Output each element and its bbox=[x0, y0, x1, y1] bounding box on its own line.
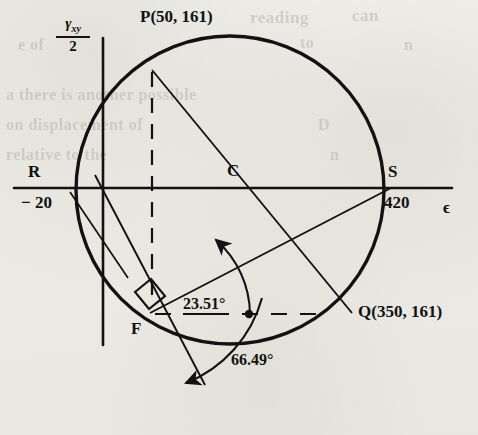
point-label-S: S bbox=[388, 163, 397, 180]
gamma-denominator: 2 bbox=[56, 39, 90, 55]
point-label-Q: Q(350, 161) bbox=[358, 303, 442, 320]
right-angle-marker bbox=[135, 279, 165, 309]
angle-label-66: 66.49° bbox=[231, 352, 273, 368]
value-label-S: 420 bbox=[384, 194, 410, 211]
point-label-R: R bbox=[28, 163, 40, 180]
mohr-circle bbox=[76, 36, 384, 344]
axis-label-gamma-over-2: γxy 2 bbox=[56, 16, 90, 54]
figure-canvas: readingcane oftona there is another poss… bbox=[0, 0, 478, 435]
chord-pq bbox=[152, 70, 352, 313]
mohr-circle-drawing bbox=[0, 0, 478, 435]
angle-label-23: 23.51° bbox=[183, 296, 225, 315]
value-label-R: − 20 bbox=[21, 194, 52, 211]
point-label-P: P(50, 161) bbox=[140, 8, 213, 25]
point-label-F: F bbox=[131, 320, 141, 337]
line-r-short bbox=[70, 192, 128, 278]
point-label-C: C bbox=[227, 162, 239, 179]
angle-vertex-dot bbox=[245, 310, 253, 318]
gamma-numerator: γxy bbox=[56, 16, 90, 35]
axis-label-epsilon: ϵ bbox=[443, 199, 450, 216]
